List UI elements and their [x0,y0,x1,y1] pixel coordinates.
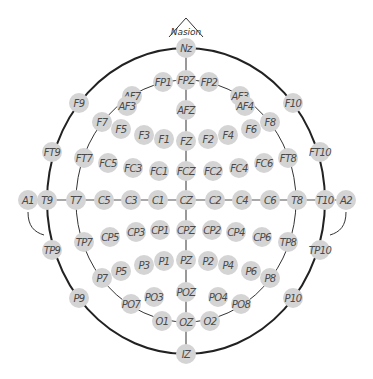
electrode-label: TP10 [309,245,332,256]
electrode-afz: AFZ [176,100,197,120]
electrode-label: F2 [203,134,214,145]
electrode-f3: F3 [134,125,154,145]
electrode-label: FT9 [44,147,61,158]
electrode-label: C6 [264,195,276,206]
electrode-label: Nz [180,43,193,54]
electrode-label: FT8 [280,153,297,164]
electrode-pz: PZ [176,250,196,270]
electrode-label: CZ [180,195,194,206]
electrode-cp1: CP1 [150,220,170,240]
electrode-label: AFZ [176,105,196,116]
electrode-label: P8 [264,273,275,284]
electrode-label: P7 [96,273,108,284]
electrode-cp2: CP2 [202,220,222,240]
electrode-tp10: TP10 [309,240,332,260]
electrode-po7: PO7 [121,294,141,314]
electrode-label: P10 [285,293,302,304]
electrode-ft7: FT7 [74,148,94,168]
electrode-label: F10 [285,98,302,109]
electrode-label: CP2 [203,225,221,236]
electrode-fc4: FC4 [229,158,249,178]
electrode-label: C3 [125,195,137,206]
nasion-label: Nasion [171,27,202,37]
electrode-f1: F1 [154,129,174,149]
electrode-label: C5 [98,195,110,206]
electrode-po4: PO4 [208,287,228,307]
electrode-o2: O2 [200,311,220,331]
nasion-marker: Nasion [169,18,203,37]
electrode-t10: T10 [315,190,335,210]
electrode-label: OZ [179,317,194,328]
electrode-label: T7 [70,195,83,206]
electrode-label: P6 [245,266,256,277]
electrode-tp9: TP9 [42,240,62,260]
electrode-tp8: TP8 [278,232,298,252]
electrode-label: PO8 [232,299,251,310]
electrode-p5: P5 [111,261,131,281]
electrode-ft9: FT9 [42,142,62,162]
electrode-af3: AF3 [117,96,137,116]
electrode-o1: O1 [152,311,172,331]
electrode-t8: T8 [287,190,307,210]
electrode-label: F6 [246,124,257,135]
electrode-iz: IZ [176,344,196,364]
electrode-label: O2 [203,316,216,327]
electrode-label: FC4 [230,163,248,174]
electrode-label: TP7 [76,237,94,248]
electrode-c6: C6 [260,190,280,210]
electrode-f8: F8 [260,112,280,132]
electrode-fcz: FCZ [176,161,197,181]
electrode-label: T9 [41,195,53,206]
electrode-label: F7 [97,117,109,128]
electrode-label: FT10 [309,147,331,158]
electrode-f10: F10 [283,93,303,113]
electrode-label: FPZ [178,75,197,86]
electrode-label: FC1 [150,166,167,177]
electrode-p10: P10 [283,288,303,308]
electrode-fc3: FC3 [123,158,143,178]
electrode-fc6: FC6 [254,153,274,173]
electrode-f2: F2 [198,129,218,149]
electrode-po3: PO3 [144,287,164,307]
electrode-cz: CZ [176,190,196,210]
electrode-t7: T7 [66,190,86,210]
electrode-ft8: FT8 [278,148,298,168]
electrode-po8: PO8 [231,294,251,314]
electrode-cp6: CP6 [252,227,272,247]
electrode-label: T8 [291,195,303,206]
electrode-f7: F7 [92,112,112,132]
electrode-label: AF3 [117,101,135,112]
electrode-label: CP5 [101,232,119,243]
electrode-label: FC6 [255,158,273,169]
electrode-nodes: NzFPZAFZFZFCZCZCPZPZPOZOZIZA1T9T7C5C3C1C… [18,38,356,364]
electrode-label: TP9 [44,245,61,256]
electrode-p3: P3 [134,255,154,275]
electrode-label: C2 [209,195,221,206]
electrode-a2: A2 [336,190,356,210]
electrode-fc5: FC5 [98,153,118,173]
electrode-f5: F5 [111,119,131,139]
electrode-ft10: FT10 [309,142,331,162]
electrode-fp1: FP1 [153,72,173,92]
electrode-label: FC2 [204,166,222,177]
electrode-tp7: TP7 [74,232,94,252]
electrode-f9: F9 [69,93,89,113]
electrode-label: C1 [152,195,164,206]
electrode-cp3: CP3 [126,222,146,242]
electrode-label: P5 [115,266,126,277]
electrode-label: F4 [223,130,234,141]
electrode-p1: P1 [154,251,174,271]
electrode-label: CP4 [227,227,245,238]
right-ear-icon [330,212,346,235]
electrode-c5: C5 [94,190,114,210]
electrode-label: P4 [222,260,233,271]
electrode-label: P9 [73,293,84,304]
electrode-label: FC3 [124,163,142,174]
electrode-label: PO4 [209,292,228,303]
electrode-label: PO7 [122,299,142,310]
electrode-label: CP3 [127,227,145,238]
electrode-c4: C4 [232,190,252,210]
electrode-label: PO3 [145,292,164,303]
electrode-label: F9 [74,98,85,109]
electrode-label: CP6 [253,232,271,243]
